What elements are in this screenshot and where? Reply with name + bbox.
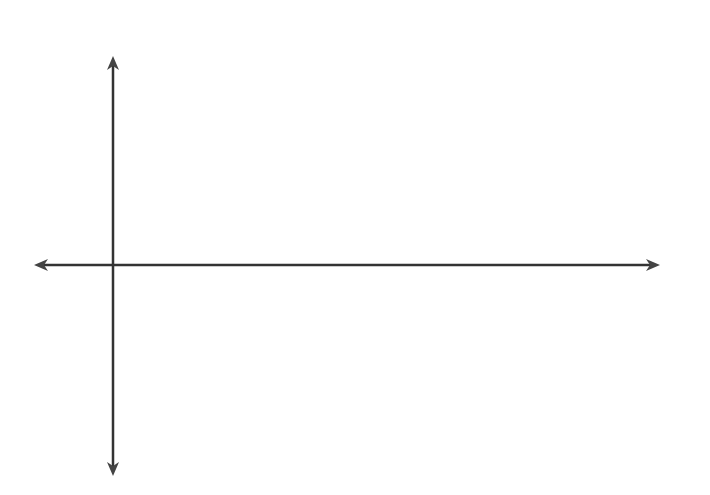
cosine-chart xyxy=(0,0,710,495)
axes xyxy=(34,56,660,476)
